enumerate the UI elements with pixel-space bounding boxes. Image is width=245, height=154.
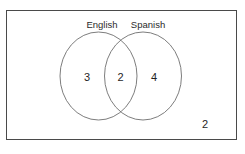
spanish-set-label: Spanish <box>131 19 165 30</box>
venn-diagram-canvas: English Spanish 3 2 4 2 <box>0 0 245 154</box>
english-set-label: English <box>86 19 117 30</box>
intersection-count: 2 <box>117 71 123 83</box>
outside-universe-count: 2 <box>202 118 208 130</box>
venn-diagram-svg: English Spanish 3 2 4 2 <box>0 0 245 154</box>
spanish-only-count: 4 <box>151 71 157 83</box>
english-only-count: 3 <box>84 71 90 83</box>
